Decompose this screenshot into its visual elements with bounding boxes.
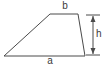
trapezoid-outline bbox=[4, 14, 85, 56]
trapezoid-figure: b a h bbox=[0, 0, 108, 70]
height-arrowhead-up-icon bbox=[91, 16, 96, 22]
top-base-label: b bbox=[58, 1, 72, 11]
height-label: h bbox=[96, 29, 106, 39]
bottom-base-label: a bbox=[43, 56, 57, 66]
height-arrowhead-down-icon bbox=[91, 48, 96, 54]
